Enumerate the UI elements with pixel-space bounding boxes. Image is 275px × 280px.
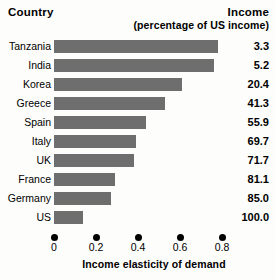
axis-tick-label: 0.6 bbox=[160, 241, 200, 253]
income-value-label: 3.3 bbox=[221, 40, 269, 53]
column-header-income: Income bbox=[228, 6, 269, 18]
bar-track bbox=[54, 135, 222, 148]
income-value-label: 85.0 bbox=[221, 192, 269, 205]
axis-tick-label: 0.4 bbox=[118, 241, 158, 253]
axis-tick-marker bbox=[135, 234, 142, 241]
bar bbox=[54, 40, 218, 53]
bar-row: Spain55.9 bbox=[0, 114, 275, 133]
bar-row: Tanzania3.3 bbox=[0, 38, 275, 57]
bar bbox=[54, 173, 115, 186]
bar-track bbox=[54, 211, 222, 224]
category-label: Italy bbox=[0, 135, 51, 147]
bar bbox=[54, 97, 165, 110]
bar-row: Korea20.4 bbox=[0, 76, 275, 95]
column-header-country: Country bbox=[8, 6, 53, 18]
bar-track bbox=[54, 59, 222, 72]
income-value-label: 55.9 bbox=[221, 116, 269, 129]
income-value-label: 5.2 bbox=[221, 59, 269, 72]
income-value-label: 69.7 bbox=[221, 135, 269, 148]
bar-track bbox=[54, 173, 222, 186]
bar-rows: Tanzania3.3India5.2Korea20.4Greece41.3Sp… bbox=[0, 38, 275, 228]
bar bbox=[54, 116, 146, 129]
bar bbox=[54, 211, 83, 224]
bar bbox=[54, 59, 214, 72]
category-label: India bbox=[0, 59, 51, 71]
axis-tick-label: 0 bbox=[34, 241, 74, 253]
axis-tick-label: 0.8 bbox=[202, 241, 242, 253]
income-value-label: 41.3 bbox=[221, 97, 269, 110]
category-label: US bbox=[0, 211, 51, 223]
bar-row: Italy69.7 bbox=[0, 133, 275, 152]
bar-row: US100.0 bbox=[0, 209, 275, 228]
category-label: Greece bbox=[0, 97, 51, 109]
bar-row: Germany85.0 bbox=[0, 190, 275, 209]
category-label: Tanzania bbox=[0, 40, 51, 52]
bar bbox=[54, 192, 111, 205]
axis-tick-marker bbox=[177, 234, 184, 241]
income-value-label: 71.7 bbox=[221, 154, 269, 167]
category-label: Korea bbox=[0, 78, 51, 90]
bar-row: Greece41.3 bbox=[0, 95, 275, 114]
bar-row: UK71.7 bbox=[0, 152, 275, 171]
chart-figure: Country Income (percentage of US income)… bbox=[0, 0, 275, 280]
category-label: France bbox=[0, 173, 51, 185]
income-value-label: 20.4 bbox=[221, 78, 269, 91]
bar-track bbox=[54, 97, 222, 110]
bar-track bbox=[54, 116, 222, 129]
bar bbox=[54, 78, 182, 91]
bar-track bbox=[54, 78, 222, 91]
bar bbox=[54, 135, 136, 148]
x-axis: 00.20.40.60.8 bbox=[0, 232, 275, 252]
income-value-label: 100.0 bbox=[221, 211, 269, 224]
category-label: Germany bbox=[0, 192, 51, 204]
x-axis-title: Income elasticity of demand bbox=[54, 258, 254, 270]
category-label: UK bbox=[0, 154, 51, 166]
bar bbox=[54, 154, 134, 167]
bar-track bbox=[54, 154, 222, 167]
income-value-label: 81.1 bbox=[221, 173, 269, 186]
bar-track bbox=[54, 40, 222, 53]
column-header-income-subtitle: (percentage of US income) bbox=[133, 19, 269, 31]
axis-tick-marker bbox=[51, 234, 58, 241]
bar-track bbox=[54, 192, 222, 205]
chart-header: Country Income (percentage of US income) bbox=[0, 6, 275, 36]
category-label: Spain bbox=[0, 116, 51, 128]
bar-row: France81.1 bbox=[0, 171, 275, 190]
axis-tick-marker bbox=[93, 234, 100, 241]
bar-row: India5.2 bbox=[0, 57, 275, 76]
axis-tick-label: 0.2 bbox=[76, 241, 116, 253]
axis-tick-marker bbox=[219, 234, 226, 241]
